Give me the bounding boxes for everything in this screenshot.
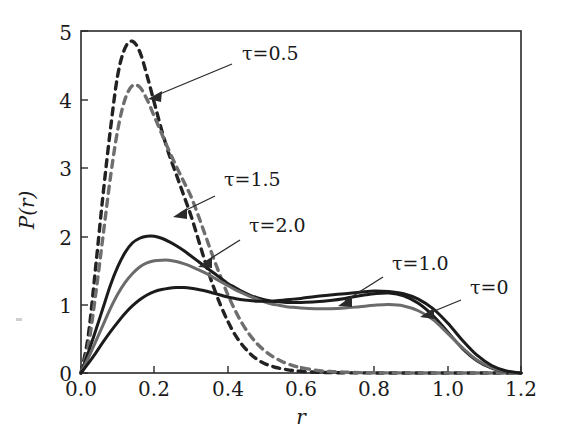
annotation-tau-1.0: τ=1.0 [392, 252, 449, 274]
curve-τ=0 [81, 287, 521, 373]
curve-group [81, 41, 521, 373]
annotation-arrows [148, 64, 461, 319]
curve-τ=0.5 [81, 41, 521, 373]
x-axis-title: r [296, 405, 307, 429]
y-axis-title: P(r) [15, 191, 39, 231]
x-tick-label-5: 1.0 [432, 377, 464, 401]
x-tick-label-2: 0.4 [212, 377, 244, 401]
y-tick-label-3: 3 [59, 157, 72, 181]
y-tick-label-0: 0 [59, 362, 72, 386]
x-tick-label-6: 1.2 [505, 377, 537, 401]
scan-artifact [16, 318, 22, 321]
y-tick-label-4: 4 [59, 89, 72, 113]
curve-τ=1.0 [81, 260, 521, 373]
annotation-tau-0: τ=0 [470, 276, 509, 298]
figure-container: 0.0 0.2 0.4 0.6 0.8 1.0 1.2 0 1 2 3 4 5 … [0, 0, 561, 437]
y-tick-label-5: 5 [59, 21, 72, 45]
annotation-tau-1.5: τ=1.5 [224, 168, 281, 190]
chart-svg: 0.0 0.2 0.4 0.6 0.8 1.0 1.2 0 1 2 3 4 5 … [0, 0, 561, 437]
curve-τ=2.0 [81, 236, 521, 373]
x-tick-label-3: 0.6 [285, 377, 317, 401]
x-tick-label-4: 0.8 [358, 377, 390, 401]
y-tick-label-1: 1 [59, 294, 72, 318]
y-tick-label-2: 2 [59, 226, 72, 250]
plot-frame [81, 31, 521, 373]
y-tickmarks [81, 31, 88, 373]
annotation-tau-0.5: τ=0.5 [242, 42, 299, 64]
x-tick-label-1: 0.2 [138, 377, 170, 401]
annotation-tau-2.0: τ=2.0 [249, 214, 306, 236]
